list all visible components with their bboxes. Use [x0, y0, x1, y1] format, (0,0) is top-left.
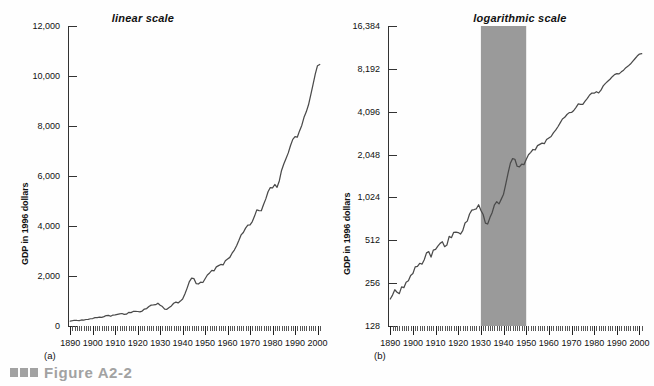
x-minor-tick	[433, 326, 434, 331]
y-tick-text: 2,000	[37, 271, 60, 281]
x-major-tick	[160, 326, 161, 335]
x-tick-label: 1980	[584, 338, 604, 348]
x-minor-tick	[122, 326, 123, 331]
x-minor-tick	[216, 326, 217, 331]
x-minor-tick	[275, 326, 276, 331]
x-minor-tick	[203, 326, 204, 331]
x-tick-label: 1910	[426, 338, 446, 348]
x-minor-tick	[212, 326, 213, 331]
x-minor-tick	[88, 326, 89, 331]
x-minor-tick	[86, 326, 87, 331]
x-minor-tick	[605, 326, 606, 331]
y-tick-text: 16,384	[352, 21, 380, 31]
x-minor-tick	[264, 326, 265, 331]
x-minor-tick	[306, 326, 307, 331]
x-minor-tick	[470, 326, 471, 331]
x-minor-tick	[490, 326, 491, 331]
x-minor-tick	[277, 326, 278, 331]
x-minor-tick	[528, 326, 529, 331]
y-tick-text: 8,000	[37, 121, 60, 131]
x-major-tick	[504, 326, 505, 335]
x-minor-tick	[194, 326, 195, 331]
x-minor-tick	[578, 326, 579, 331]
x-minor-tick	[558, 326, 559, 331]
y-tick-text: 2,048	[357, 150, 380, 160]
x-minor-tick	[129, 326, 130, 331]
x-minor-tick	[601, 326, 602, 331]
panel-a-x-axis-ticks	[68, 326, 322, 335]
x-minor-tick	[442, 326, 443, 331]
x-minor-tick	[140, 326, 141, 331]
x-minor-tick	[474, 326, 475, 331]
x-tick-label: 1890	[60, 338, 80, 348]
x-minor-tick	[234, 326, 235, 331]
shaded-period-band	[481, 26, 526, 326]
x-minor-tick	[483, 326, 484, 331]
x-minor-tick	[189, 326, 190, 331]
x-minor-tick	[144, 326, 145, 331]
x-minor-tick	[192, 326, 193, 331]
x-minor-tick	[531, 326, 532, 331]
x-minor-tick	[615, 326, 616, 331]
x-minor-tick	[97, 326, 98, 331]
x-minor-tick	[187, 326, 188, 331]
x-minor-tick	[610, 326, 611, 331]
y-tick-mark	[388, 240, 397, 241]
x-minor-tick	[214, 326, 215, 331]
x-minor-tick	[454, 326, 455, 331]
x-minor-tick	[117, 326, 118, 331]
x-minor-tick	[293, 326, 294, 331]
x-minor-tick	[196, 326, 197, 331]
x-minor-tick	[408, 326, 409, 331]
x-tick-label: 1970	[561, 338, 581, 348]
x-tick-label: 1930	[471, 338, 491, 348]
x-minor-tick	[535, 326, 536, 331]
x-minor-tick	[241, 326, 242, 331]
x-minor-tick	[309, 326, 310, 331]
x-minor-tick	[286, 326, 287, 331]
x-major-tick	[250, 326, 251, 335]
x-minor-tick	[104, 326, 105, 331]
x-minor-tick	[556, 326, 557, 331]
x-minor-tick	[176, 326, 177, 331]
x-minor-tick	[84, 326, 85, 331]
x-tick-label: 2000	[307, 338, 327, 348]
x-minor-tick	[510, 326, 511, 331]
x-minor-tick	[156, 326, 157, 331]
x-minor-tick	[519, 326, 520, 331]
panel-a-y-axis-spine	[68, 26, 69, 326]
x-minor-tick	[284, 326, 285, 331]
y-tick-mark	[388, 283, 397, 284]
x-minor-tick	[581, 326, 582, 331]
x-major-tick	[115, 326, 116, 335]
x-minor-tick	[565, 326, 566, 331]
x-tick-label: 1990	[285, 338, 305, 348]
x-minor-tick	[180, 326, 181, 331]
x-minor-tick	[517, 326, 518, 331]
y-tick-text: 0	[55, 321, 60, 331]
x-minor-tick	[438, 326, 439, 331]
x-minor-tick	[300, 326, 301, 331]
x-major-tick	[318, 326, 319, 335]
x-minor-tick	[165, 326, 166, 331]
x-tick-label: 1980	[263, 338, 283, 348]
x-minor-tick	[320, 326, 321, 331]
x-tick-label: 1920	[128, 338, 148, 348]
x-minor-tick	[75, 326, 76, 331]
x-minor-tick	[201, 326, 202, 331]
y-tick-mark	[68, 126, 77, 127]
x-major-tick	[183, 326, 184, 335]
x-minor-tick	[612, 326, 613, 331]
x-minor-tick	[230, 326, 231, 331]
x-major-tick	[594, 326, 595, 335]
x-minor-tick	[288, 326, 289, 331]
x-minor-tick	[476, 326, 477, 331]
x-minor-tick	[431, 326, 432, 331]
x-minor-tick	[460, 326, 461, 331]
x-minor-tick	[147, 326, 148, 331]
x-minor-tick	[508, 326, 509, 331]
x-minor-tick	[540, 326, 541, 331]
x-minor-tick	[472, 326, 473, 331]
x-minor-tick	[494, 326, 495, 331]
panel-logarithmic-scale: logarithmic scale GDP in 1996 dollars 12…	[330, 0, 654, 386]
